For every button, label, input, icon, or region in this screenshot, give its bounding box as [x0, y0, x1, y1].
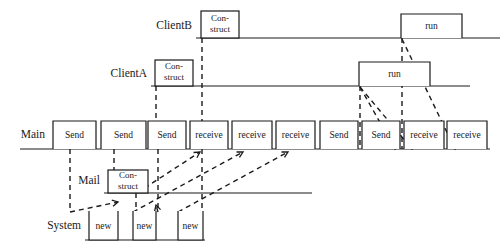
lane-label-system: System: [47, 219, 81, 232]
activation-label: Con-: [211, 13, 229, 23]
activation-label: Send: [330, 130, 349, 140]
activation-label: receive: [238, 130, 265, 140]
activation-label: Send: [158, 130, 177, 140]
lane-label-main: Main: [21, 128, 46, 140]
message-m1: [70, 202, 118, 212]
lane-label-clienta: ClientA: [111, 67, 148, 79]
activation-label: receive: [195, 130, 222, 140]
activation-system-16[interactable]: new: [133, 211, 156, 240]
activation-mail-14[interactable]: Con-struct: [108, 170, 148, 194]
activation-label: Con-: [119, 170, 137, 180]
activation-clienta-3[interactable]: run: [359, 62, 430, 86]
activation-label: struct: [210, 24, 230, 34]
activation-box-group: Con-structrunCon-structrunSendSendSendre…: [53, 11, 487, 240]
activation-label: Send: [372, 130, 391, 140]
activation-label: new: [96, 221, 112, 231]
lane-label-mail: Mail: [78, 174, 100, 186]
activation-main-4[interactable]: Send: [53, 121, 96, 149]
activation-main-6[interactable]: Send: [148, 121, 186, 149]
activation-main-8[interactable]: receive: [232, 121, 272, 149]
activation-main-5[interactable]: Send: [101, 121, 146, 149]
activation-label: run: [425, 21, 438, 31]
activation-label: struct: [164, 72, 184, 82]
activation-label: receive: [282, 130, 309, 140]
activation-label: Con-: [165, 61, 183, 71]
sequence-diagram-canvas: Con-structrunCon-structrunSendSendSendre…: [0, 0, 504, 250]
activation-clientb-1[interactable]: run: [401, 14, 462, 38]
diagram-svg: Con-structrunCon-structrunSendSendSendre…: [0, 0, 504, 250]
activation-label: Send: [114, 130, 133, 140]
activation-clienta-2[interactable]: Con-struct: [155, 60, 193, 86]
activation-label: run: [388, 69, 401, 79]
lane-label-clientb: ClientB: [156, 19, 192, 31]
activation-main-10[interactable]: Send: [320, 121, 358, 149]
activation-label: receive: [453, 130, 480, 140]
activation-main-12[interactable]: receive: [404, 121, 444, 149]
activation-label: struct: [118, 181, 138, 191]
message-m5: [178, 152, 288, 212]
activation-system-15[interactable]: new: [89, 211, 118, 240]
activation-clientb-0[interactable]: Con-struct: [201, 11, 239, 38]
activation-main-7[interactable]: receive: [190, 121, 228, 149]
activation-label: new: [183, 221, 199, 231]
activation-main-9[interactable]: receive: [276, 121, 315, 149]
activation-main-11[interactable]: Send: [362, 121, 400, 149]
activation-main-13[interactable]: receive: [447, 121, 487, 149]
message-m4: [133, 152, 243, 212]
arrowhead-m2: [194, 152, 200, 158]
activation-label: new: [137, 221, 153, 231]
activation-label: receive: [410, 130, 437, 140]
activation-system-17[interactable]: new: [178, 211, 203, 240]
activation-label: Send: [65, 130, 84, 140]
